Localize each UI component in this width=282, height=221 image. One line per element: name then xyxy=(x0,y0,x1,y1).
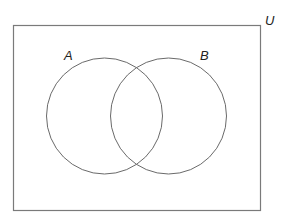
universe-rectangle xyxy=(14,26,261,211)
set-b-circle xyxy=(111,58,227,174)
venn-diagram: A B U xyxy=(0,0,282,221)
set-a-label: A xyxy=(63,48,73,63)
set-a-circle xyxy=(47,58,163,174)
universe-label: U xyxy=(265,13,275,28)
set-b-label: B xyxy=(200,48,209,63)
